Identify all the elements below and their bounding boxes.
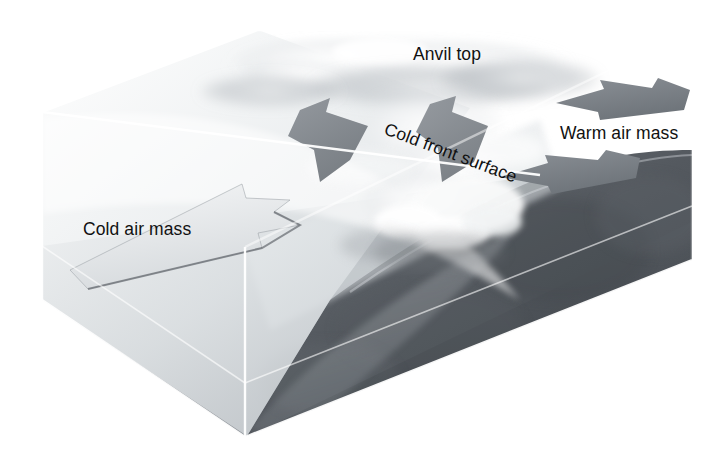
label-anvil-top: Anvil top	[413, 44, 481, 65]
cold-front-block-diagram: Anvil top Warm air mass Cold front surfa…	[0, 0, 708, 455]
label-cold-air-mass: Cold air mass	[83, 219, 191, 240]
terrain-shade-b	[595, 175, 705, 255]
label-warm-air-mass: Warm air mass	[560, 123, 678, 144]
